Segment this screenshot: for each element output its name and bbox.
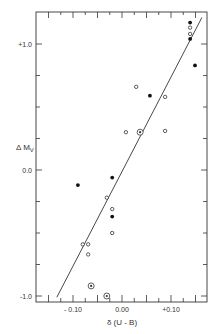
y-tick-label: +1.0	[18, 41, 32, 48]
open-point	[86, 253, 89, 256]
open-point	[124, 131, 127, 134]
open-point	[111, 207, 114, 210]
filled-point	[148, 94, 152, 98]
filled-point	[188, 21, 192, 25]
x-axis-ticks: - 0.100.00+0.10	[49, 12, 196, 313]
open-point	[86, 243, 89, 246]
open-point	[81, 243, 84, 246]
filled-point	[110, 215, 114, 219]
y-tick-label: 0.0	[22, 167, 32, 174]
y-axis-label: Δ MV	[16, 143, 34, 153]
open-point	[188, 32, 191, 35]
open-point	[111, 231, 114, 234]
x-tick-label: - 0.10	[64, 306, 82, 313]
x-axis-label: δ (U - B)	[107, 318, 138, 327]
scatter-chart: -1.00.0+1.0 - 0.100.00+0.10 Δ MV δ (U - …	[0, 0, 217, 334]
filled-point	[110, 176, 114, 180]
filled-point	[188, 37, 192, 41]
plot-frame	[36, 12, 207, 302]
filled-point	[193, 64, 197, 68]
fit-line	[57, 18, 202, 298]
x-tick-label: +0.10	[162, 306, 180, 313]
open-point	[163, 129, 166, 132]
y-tick-label: -1.0	[20, 293, 32, 300]
filled-point	[76, 183, 80, 187]
open-point	[188, 26, 191, 29]
open-point	[105, 196, 108, 199]
y-axis-ticks: -1.00.0+1.0	[18, 41, 207, 300]
open-point	[135, 85, 138, 88]
x-tick-label: 0.00	[115, 306, 129, 313]
open-point	[163, 95, 166, 98]
